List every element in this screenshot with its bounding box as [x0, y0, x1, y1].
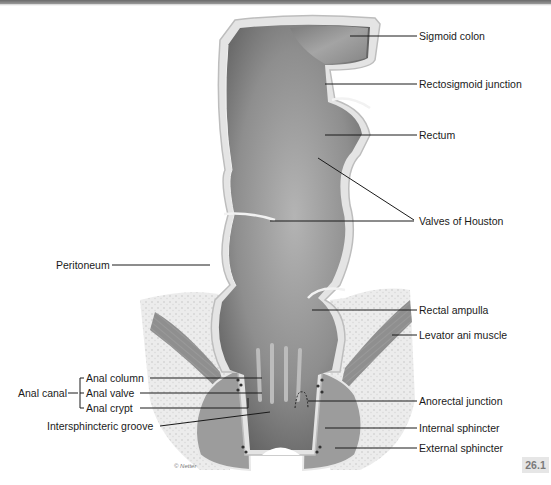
figure-number-badge: 26.1 — [522, 457, 549, 473]
label-anal-canal: Anal canal — [18, 387, 67, 399]
label-external-sphincter: External sphincter — [419, 442, 503, 454]
label-anorectal-junction: Anorectal junction — [419, 395, 502, 407]
label-rectum: Rectum — [419, 129, 455, 141]
label-intersphincteric-groove: Intersphincteric groove — [47, 420, 153, 432]
label-sigmoid-colon: Sigmoid colon — [419, 30, 485, 42]
copyright-signature: © Netter — [174, 463, 196, 469]
label-valves-of-houston: Valves of Houston — [419, 215, 503, 227]
label-anal-valve: Anal valve — [86, 387, 134, 399]
label-peritoneum: Peritoneum — [56, 259, 110, 271]
anatomy-illustration — [0, 0, 551, 485]
label-rectal-ampulla: Rectal ampulla — [419, 304, 488, 316]
label-anal-column: Anal column — [86, 372, 144, 384]
label-internal-sphincter: Internal sphincter — [419, 422, 500, 434]
label-rectosigmoid-junction: Rectosigmoid junction — [419, 78, 522, 90]
label-anal-crypt: Anal crypt — [86, 402, 133, 414]
label-levator-ani-muscle: Levator ani muscle — [419, 329, 507, 341]
